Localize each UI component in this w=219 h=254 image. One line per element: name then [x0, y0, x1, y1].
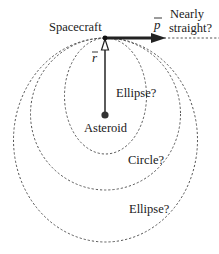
momentum-vector-arrowhead	[151, 33, 166, 43]
straight-label: straight?	[169, 21, 212, 35]
spacecraft-dot	[103, 36, 108, 41]
orbit-diagram: Spacecraft p Nearly straight? r Ellipse?…	[0, 0, 219, 254]
spacecraft-label: Spacecraft	[49, 20, 102, 34]
nearly-label: Nearly	[170, 7, 205, 21]
asteroid-icon	[101, 111, 108, 118]
momentum-label: p	[153, 17, 161, 32]
position-vector-arrowhead	[102, 39, 109, 50]
circle-label: Circle?	[128, 153, 165, 167]
outer-ellipse-label: Ellipse?	[129, 202, 170, 216]
inner-ellipse-label: Ellipse?	[116, 86, 157, 100]
asteroid-label: Asteroid	[84, 121, 128, 135]
